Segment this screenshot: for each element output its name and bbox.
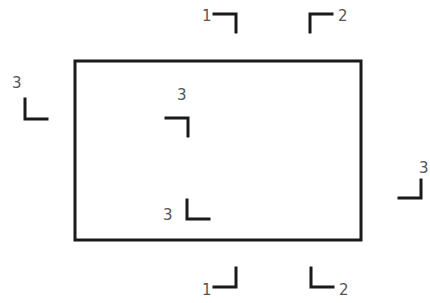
- corner-mark-inner-bottom-3: 3: [163, 200, 209, 224]
- mark-label: 3: [163, 206, 173, 224]
- mark-label: 3: [12, 74, 22, 92]
- mark-label: 2: [338, 7, 348, 25]
- corner-bracket-icon: [214, 268, 236, 287]
- corner-bracket-icon: [25, 99, 47, 119]
- corner-mark-bottom-right-2: 2: [311, 268, 349, 299]
- corner-mark-bottom-left-1: 1: [202, 268, 236, 299]
- corner-mark-right-outer-3: 3: [399, 159, 429, 198]
- corner-mark-left-outer-3: 3: [12, 74, 47, 119]
- corner-bracket-icon: [187, 200, 209, 219]
- corner-bracket-icon: [311, 268, 333, 287]
- mark-label: 3: [419, 159, 429, 177]
- corner-bracket-icon: [214, 14, 236, 32]
- corner-mark-inner-top-3: 3: [166, 86, 188, 136]
- corner-bracket-icon: [399, 180, 421, 198]
- mark-label: 1: [202, 281, 212, 299]
- corner-mark-top-right-2: 2: [310, 7, 348, 32]
- corner-mark-top-left-1: 1: [202, 7, 236, 32]
- main-rectangle: [75, 61, 361, 240]
- registration-diagram: 12333312: [0, 0, 430, 303]
- mark-label: 3: [177, 86, 187, 104]
- corner-bracket-icon: [310, 14, 332, 32]
- mark-label: 1: [202, 7, 212, 25]
- corner-bracket-icon: [166, 118, 188, 136]
- mark-label: 2: [339, 281, 349, 299]
